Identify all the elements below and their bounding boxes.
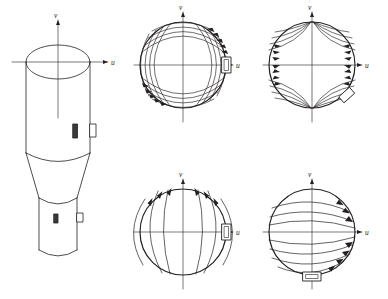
taper-left: [26, 153, 39, 198]
panel-top-left: u v: [134, 3, 240, 122]
upper-cyl-bottom: [26, 153, 90, 162]
figure-canvas: u v: [0, 0, 388, 299]
panel-tr-label-v: v: [308, 3, 312, 12]
panel-bl-axes: [134, 179, 233, 289]
body-axis-label-v: v: [54, 11, 58, 20]
panel-bl-label-u: u: [236, 228, 240, 237]
panel-bottom-right: u v: [263, 170, 369, 289]
tab-marker-upper: [90, 124, 96, 137]
slot-marker-lower: [54, 214, 58, 223]
panel-br-label-v: v: [308, 170, 312, 179]
taper-right: [77, 153, 90, 198]
panel-tl-axes: [134, 12, 233, 122]
panel-bl-tab: [222, 224, 231, 240]
lower-cyl-bottom: [39, 250, 77, 256]
panel-tr-label-u: u: [365, 61, 369, 70]
body-axis-label-u: u: [111, 58, 115, 67]
panel-br-label-u: u: [365, 228, 369, 237]
panel-br-arrows-lower-right: [328, 242, 353, 272]
stepped-cylindrical-body: u v: [12, 11, 115, 256]
panel-tr-arrows-right-edge: [343, 44, 352, 86]
slot-marker-upper: [73, 124, 78, 138]
panel-bottom-left: u v: [133, 170, 240, 289]
panel-tl-tab: [222, 57, 231, 73]
panel-tl-label-v: v: [179, 3, 183, 12]
panel-bl-label-v: v: [179, 170, 183, 179]
panel-tr-arrows-left-edge: [272, 44, 281, 86]
taper-bottom: [39, 198, 77, 204]
tab-marker-lower: [77, 213, 83, 222]
panel-top-right: u v: [263, 3, 369, 122]
panel-tl-label-u: u: [236, 61, 240, 70]
panel-br-tab: [303, 272, 321, 281]
